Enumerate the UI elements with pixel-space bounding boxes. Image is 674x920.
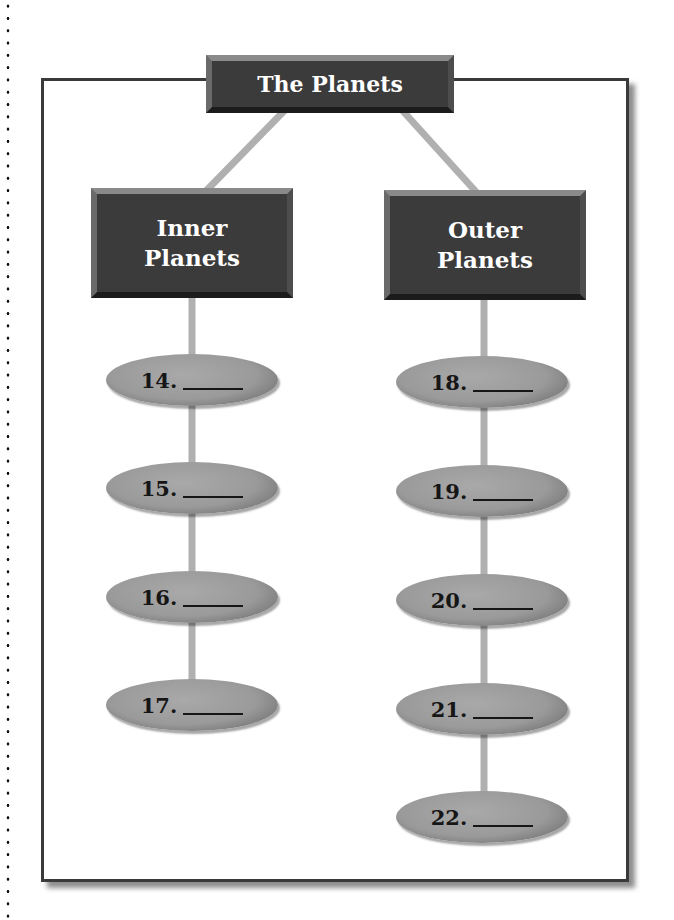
answer-oval-19: 19. (396, 465, 568, 517)
answer-blank[interactable] (473, 807, 533, 827)
answer-blank[interactable] (473, 481, 533, 501)
answer-blank[interactable] (473, 699, 533, 719)
inner-label-line2: Planets (144, 243, 240, 273)
answer-oval-21: 21. (396, 683, 568, 735)
answer-oval-16: 16. (106, 571, 278, 623)
answer-oval-22: 22. (396, 791, 568, 843)
connector-lines (0, 0, 674, 920)
item-number: 14. (141, 368, 178, 393)
item-number: 18. (431, 370, 468, 395)
item-number: 22. (431, 805, 468, 830)
answer-blank[interactable] (183, 587, 243, 607)
item-number: 19. (431, 479, 468, 504)
outer-planets-box: Outer Planets (384, 190, 586, 300)
item-number: 17. (141, 693, 178, 718)
answer-blank[interactable] (183, 478, 243, 498)
inner-label-line1: Inner (144, 213, 240, 243)
answer-oval-17: 17. (106, 679, 278, 731)
item-number: 16. (141, 585, 178, 610)
title-box: The Planets (206, 55, 454, 113)
answer-oval-20: 20. (396, 574, 568, 626)
answer-blank[interactable] (183, 695, 243, 715)
outer-label-line1: Outer (437, 215, 533, 245)
answer-blank[interactable] (473, 372, 533, 392)
outer-label-line2: Planets (437, 245, 533, 275)
answer-oval-15: 15. (106, 462, 278, 514)
answer-oval-14: 14. (106, 354, 278, 406)
item-number: 20. (431, 588, 468, 613)
answer-oval-18: 18. (396, 356, 568, 408)
title-text: The Planets (257, 70, 403, 99)
answer-blank[interactable] (183, 370, 243, 390)
answer-blank[interactable] (473, 590, 533, 610)
item-number: 15. (141, 476, 178, 501)
item-number: 21. (431, 697, 468, 722)
inner-planets-box: Inner Planets (91, 188, 293, 298)
